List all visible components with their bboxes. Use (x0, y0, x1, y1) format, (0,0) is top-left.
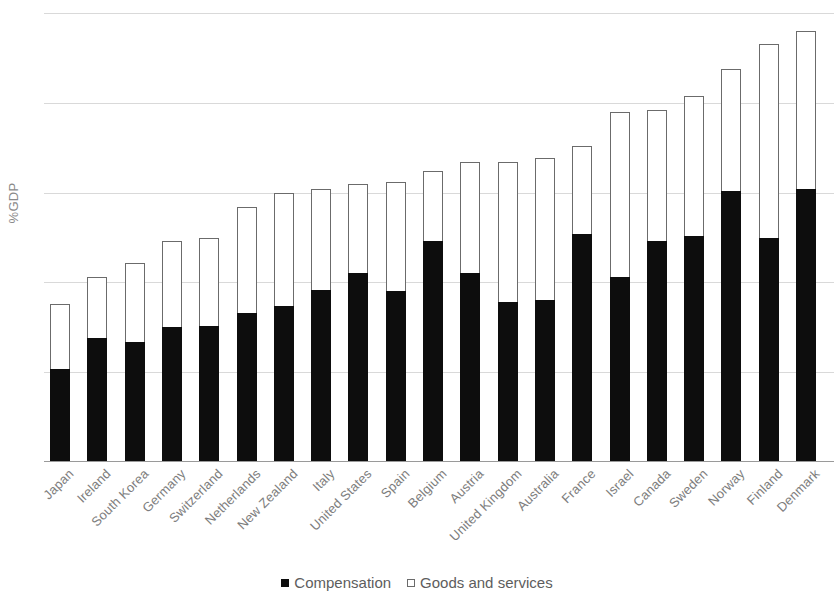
bar-segment-compensation (759, 238, 779, 463)
legend-item-label: Goods and services (420, 574, 553, 591)
bar-segment-compensation (460, 273, 480, 462)
bar-segment-compensation (87, 338, 107, 462)
legend-item[interactable]: Goods and services (407, 574, 553, 591)
bar-segment-compensation (610, 277, 630, 462)
legend-item[interactable]: Compensation (281, 574, 391, 591)
bar-denmark (796, 31, 816, 462)
bar-united-kingdom (498, 162, 518, 462)
bar-france (572, 146, 592, 462)
bar-netherlands (237, 207, 257, 462)
bar-new-zealand (274, 193, 294, 462)
bar-norway (721, 69, 741, 462)
bar-segment-compensation (162, 327, 182, 462)
x-axis-line (44, 461, 834, 462)
bar-italy (311, 189, 331, 462)
bar-segment-compensation (796, 189, 816, 462)
gridline (44, 103, 834, 104)
bar-australia (535, 158, 555, 462)
bar-segment-compensation (348, 273, 368, 462)
x-axis-tick-label: Sweden (666, 466, 711, 511)
bar-sweden (684, 96, 704, 462)
x-axis-tick-label: Spain (377, 466, 412, 501)
stacked-bar-chart: %GDP 0510152025 JapanIrelandSouth KoreaG… (0, 0, 834, 598)
bar-united-states (348, 184, 368, 462)
bar-segment-compensation (199, 326, 219, 462)
bar-segment-compensation (721, 191, 741, 462)
x-axis-tick-label: Belgium (405, 466, 450, 511)
x-axis-tick-label: Israel (602, 466, 636, 500)
bar-germany (162, 241, 182, 462)
chart-legend: CompensationGoods and services (0, 574, 834, 591)
x-axis-tick-label: France (559, 466, 599, 506)
bar-belgium (423, 171, 443, 462)
bar-segment-compensation (50, 369, 70, 462)
bar-japan (50, 304, 70, 462)
bar-segment-compensation (386, 291, 406, 462)
bar-canada (647, 110, 667, 462)
plot-area: 0510152025 (44, 13, 834, 462)
bar-spain (386, 182, 406, 462)
bar-israel (610, 112, 630, 462)
bar-segment-compensation (535, 300, 555, 462)
bar-segment-compensation (647, 241, 667, 462)
y-axis-title: %GDP (0, 0, 26, 462)
x-axis-tick-label: Norway (705, 466, 748, 509)
bar-south-korea (125, 263, 145, 462)
bar-segment-compensation (125, 342, 145, 462)
bar-segment-compensation (572, 234, 592, 462)
bar-ireland (87, 277, 107, 462)
x-axis-tick-label: Italy (310, 466, 338, 494)
bar-segment-compensation (684, 236, 704, 462)
bar-segment-compensation (423, 241, 443, 462)
y-axis-title-label: %GDP (6, 183, 21, 224)
bar-segment-compensation (498, 302, 518, 462)
legend-item-label: Compensation (294, 574, 391, 591)
bar-switzerland (199, 238, 219, 463)
gridline (44, 13, 834, 14)
hollow-square-icon (407, 579, 415, 587)
bar-segment-compensation (237, 313, 257, 462)
bar-segment-compensation (274, 306, 294, 462)
bar-finland (759, 44, 779, 462)
x-axis-tick-label: Japan (40, 466, 76, 502)
bar-segment-compensation (311, 290, 331, 462)
filled-square-icon (281, 579, 289, 587)
x-axis-tick-label: Canada (630, 466, 674, 510)
bar-austria (460, 162, 480, 462)
